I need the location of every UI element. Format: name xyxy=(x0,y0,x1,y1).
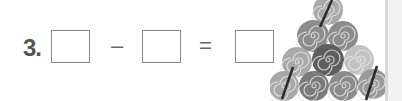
hay-roll-icon xyxy=(328,71,359,101)
minus-sign: – xyxy=(111,33,123,59)
hay-rolls-illustration xyxy=(270,0,385,101)
answer-box-subtrahend[interactable] xyxy=(142,30,181,63)
page-margin xyxy=(388,0,402,101)
answer-box-difference[interactable] xyxy=(235,30,274,63)
hay-roll-icon xyxy=(270,71,299,101)
equals-sign: = xyxy=(199,33,212,59)
answer-box-minuend[interactable] xyxy=(51,30,90,63)
problem-number: 3. xyxy=(23,34,41,62)
hay-roll-icon xyxy=(312,44,344,76)
